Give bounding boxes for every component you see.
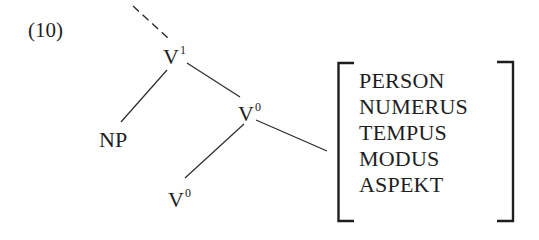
example-number: (10)	[28, 19, 63, 41]
dashed-edge-to-v1	[133, 6, 168, 38]
node-v0-lower: V0	[168, 184, 191, 211]
edge-v0-feature-matrix	[256, 120, 327, 151]
node-v1: V1	[163, 41, 186, 68]
node-v0-upper-base: V	[238, 101, 254, 126]
right-bracket	[497, 62, 513, 221]
node-v1-bar-level: 1	[180, 43, 186, 57]
feature-matrix: PERSON NUMERUS TEMPUS MODUS ASPEKT	[359, 68, 468, 198]
node-v0-upper-bar-level: 0	[255, 100, 261, 114]
feature-tempus: TEMPUS	[359, 120, 468, 146]
node-v0-lower-bar-level: 0	[185, 186, 191, 200]
node-v0-lower-base: V	[168, 187, 184, 212]
edge-v0-v0	[185, 124, 244, 178]
feature-aspekt: ASPEKT	[359, 172, 468, 198]
left-bracket	[339, 63, 355, 221]
node-v0-upper: V0	[238, 98, 261, 125]
node-np: NP	[99, 129, 127, 151]
edge-v1-np	[121, 70, 167, 122]
feature-person: PERSON	[359, 68, 468, 94]
node-v1-base: V	[163, 44, 179, 69]
feature-numerus: NUMERUS	[359, 94, 468, 120]
edge-v1-v0	[187, 63, 240, 97]
feature-modus: MODUS	[359, 146, 468, 172]
syntax-tree-diagram: (10) V1 NP V0 V0 PERSON NUMERUS TEMPUS M…	[0, 0, 539, 240]
